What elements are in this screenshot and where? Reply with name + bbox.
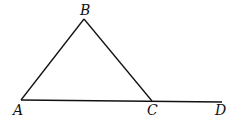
segment-ad: [21, 100, 222, 102]
label-b: B: [79, 2, 90, 18]
triangle-diagram: B A C D: [0, 0, 241, 125]
segment-ab: [21, 19, 84, 100]
label-c: C: [147, 102, 158, 118]
label-a: A: [11, 102, 23, 118]
segment-bc: [84, 19, 152, 101]
label-d: D: [214, 102, 226, 118]
